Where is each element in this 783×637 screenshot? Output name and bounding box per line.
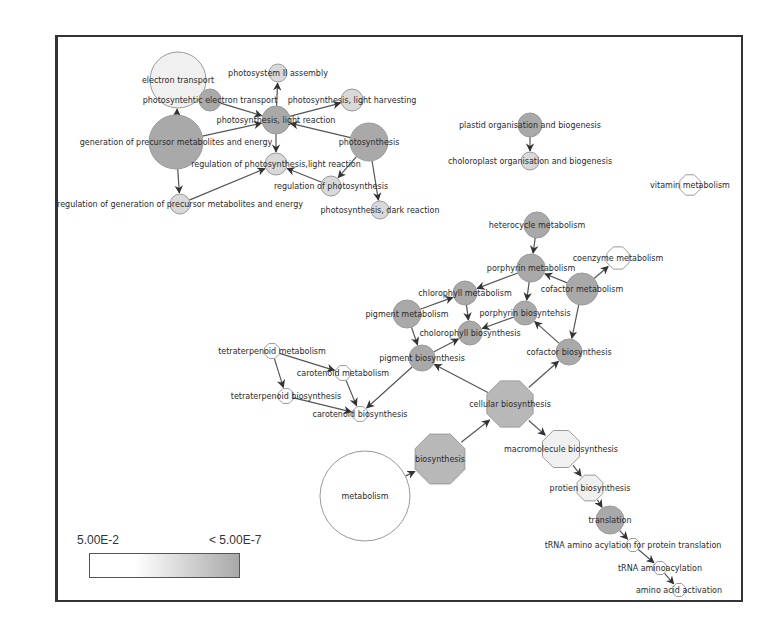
- node-label: porphyrin biosyntehsis: [479, 309, 570, 318]
- node-label: porphyrin metabolism: [487, 264, 576, 273]
- edge-macromolecule_biosynthesis-to-protein_biosynthesis: [573, 465, 581, 476]
- edge-porphyrin_metabolism-to-porphyrin_biosynthesis: [527, 282, 529, 300]
- node-label: cholorophyll biosynthesis: [419, 329, 520, 338]
- legend-high-label: < 5.00E-7: [209, 533, 261, 547]
- node-label: photosyntehtic electron transport: [143, 96, 278, 105]
- node-label: cofactor metabolism: [541, 285, 624, 294]
- node-label: heterocycle metabolism: [489, 221, 586, 230]
- node-label: pigment metabolism: [366, 310, 449, 319]
- node-label: photosystem II assembly: [228, 69, 328, 78]
- edge-pigment_metabolism-to-pigment_biosynthesis: [412, 327, 418, 344]
- node-label: choloroplast organisation and biogenesis: [448, 157, 612, 166]
- edge-photosynthesis-to-photosynthesis_dark_reaction: [372, 161, 378, 200]
- node-label: photosynthesis: [339, 138, 400, 147]
- edge-trna_aminoacylation-to-amino_acid_activation: [665, 573, 674, 584]
- node-label: carotenoid biosynthesis: [312, 410, 407, 419]
- edge-tetraterpenoid_metabolism-to-tetraterpenoid_biosynthesis: [274, 359, 283, 388]
- edge-cofactor_biosynthesis-to-porphyrin_biosynthesis: [535, 322, 560, 344]
- edge-generation_precursor-to-photosynthesis_light_reaction: [202, 123, 261, 136]
- edge-pigment_metabolism-to-chlorophyll_metabolism: [420, 297, 453, 309]
- node-label: macromolecule biosynthesis: [504, 445, 618, 454]
- edge-translation-to-trna_aminoacylation_translation: [619, 530, 627, 539]
- node-label: photosynthesis, dark reaction: [321, 206, 440, 215]
- edge-chlorophyll_metabolism-to-chlorophyll_biosynthesis: [466, 305, 468, 320]
- node-label: regulation of photosynthesis,light react…: [191, 160, 361, 169]
- node-label: vitamin metabolism: [650, 181, 730, 190]
- edge-biosynthesis-to-cellular_biosynthesis: [461, 420, 489, 442]
- edge-cellular_biosynthesis-to-pigment_biosynthesis: [434, 364, 487, 392]
- node-label: tRNA amino acylation for protein transla…: [545, 541, 722, 550]
- node-label: tetraterpenoid biosynthesis: [231, 392, 341, 401]
- edge-generation_precursor-to-regulation_generation_precursor: [178, 169, 180, 193]
- edge-porphyrin_biosynthesis-to-chlorophyll_biosynthesis: [482, 317, 514, 328]
- node-label: regulation of generation of precursor me…: [57, 200, 303, 209]
- edge-heterocycle_metabolism-to-porphyrin_metabolism: [533, 238, 535, 253]
- node-label: metabolism: [341, 492, 388, 501]
- node-label: translation: [588, 516, 631, 525]
- edge-cofactor_metabolism-to-cofactor_biosynthesis: [572, 305, 579, 339]
- node-label: protien biosynthesis: [550, 484, 631, 493]
- node-label: photosynthesis, light reaction: [217, 116, 336, 125]
- legend-low-label: 5.00E-2: [77, 533, 119, 547]
- edge-metabolism-to-biosynthesis: [405, 471, 415, 476]
- edge-cofactor_metabolism-to-coenzyme_metabolism: [594, 266, 608, 278]
- edge-carotenoid_metabolism-to-carotenoid_biosynthesis: [346, 380, 356, 405]
- edge-regulation_photosynthesis-to-regulation_photosynthesis_light: [287, 168, 322, 182]
- edge-cellular_biosynthesis-to-macromolecule_biosynthesis: [529, 421, 546, 436]
- node-label: cofactor biosynthesis: [526, 348, 611, 357]
- node-label: amino acid activation: [636, 586, 722, 595]
- node-label: generation of precursor metabolites and …: [80, 138, 273, 147]
- edge-regulation_generation_precursor-to-regulation_photosynthesis_light: [189, 169, 265, 201]
- node-label: plastid organisation and biogenesis: [459, 121, 601, 130]
- node-label: biosynthesis: [415, 455, 465, 464]
- node-label: electron transport: [142, 76, 214, 85]
- edge-cellular_biosynthesis-to-cofactor_biosynthesis: [529, 361, 559, 387]
- node-label: pigment biosynthesis: [379, 354, 465, 363]
- node-label: tetraterpenoid metabolism: [218, 347, 326, 356]
- edge-protein_biosynthesis-to-translation: [597, 500, 602, 507]
- node-label: regulation of photosynthesis: [274, 182, 388, 191]
- edge-cofactor_metabolism-to-porphyrin_metabolism: [545, 274, 567, 283]
- node-label: photosynthesis, light harvesting: [288, 96, 417, 105]
- node-label: chlorophyll metabolism: [418, 289, 512, 298]
- node-label: tRNA aminoacylation: [618, 564, 702, 573]
- edge-pigment_biosynthesis-to-chlorophyll_biosynthesis: [434, 339, 459, 352]
- edge-photosynthetic_electron_transport-to-photosynthesis_light_reaction: [221, 103, 262, 115]
- edge-photosynthesis-to-photosynthesis_light_reaction: [291, 123, 351, 137]
- legend-gradient-bar: [89, 553, 240, 578]
- edge-trna_aminoacylation_translation-to-trna_aminoacylation: [638, 550, 654, 563]
- edge-photosynthesis_light_reaction-to-photosynthesis_light_harvesting: [290, 103, 341, 116]
- node-label: coenzyme metabolism: [573, 254, 664, 263]
- node-label: carotenoid metabolism: [297, 369, 390, 378]
- edge-porphyrin_metabolism-to-chlorophyll_metabolism: [477, 273, 518, 288]
- node-label: cellular biosynthesis: [469, 400, 551, 409]
